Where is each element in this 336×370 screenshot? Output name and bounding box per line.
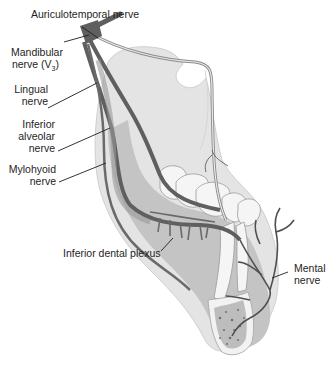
label-auriculotemporal-nerve: Auriculotemporal nerve — [31, 8, 139, 20]
label-text: nerve — [0, 175, 56, 187]
label-text: Lingual — [8, 83, 48, 95]
label-mylohyoid-nerve: Mylohyoid nerve — [0, 163, 56, 187]
label-lingual-nerve: Lingual nerve — [8, 83, 48, 107]
label-text: Auriculotemporal nerve — [31, 8, 139, 20]
label-text: alveolar — [10, 130, 55, 142]
label-text: Inferior dental plexus — [63, 247, 160, 259]
label-text: ) — [56, 58, 60, 70]
label-text: nerve — [294, 274, 326, 286]
label-mandibular-nerve: Mandibular nerve (V3) — [11, 46, 59, 75]
label-text: Mandibular — [11, 46, 59, 58]
label-mental-nerve: Mental nerve — [294, 262, 326, 286]
label-text: nerve (V — [12, 58, 52, 70]
label-inferior-alveolar-nerve: Inferior alveolar nerve — [10, 118, 55, 154]
label-inferior-dental-plexus: Inferior dental plexus — [63, 247, 160, 259]
label-text: Mental — [294, 262, 326, 274]
label-text: nerve — [10, 142, 55, 154]
label-text: Mylohyoid — [0, 163, 56, 175]
label-text: nerve — [8, 95, 48, 107]
label-text: Inferior — [10, 118, 55, 130]
canine-root — [236, 222, 248, 292]
label-text-line2: nerve (V3) — [11, 58, 59, 75]
